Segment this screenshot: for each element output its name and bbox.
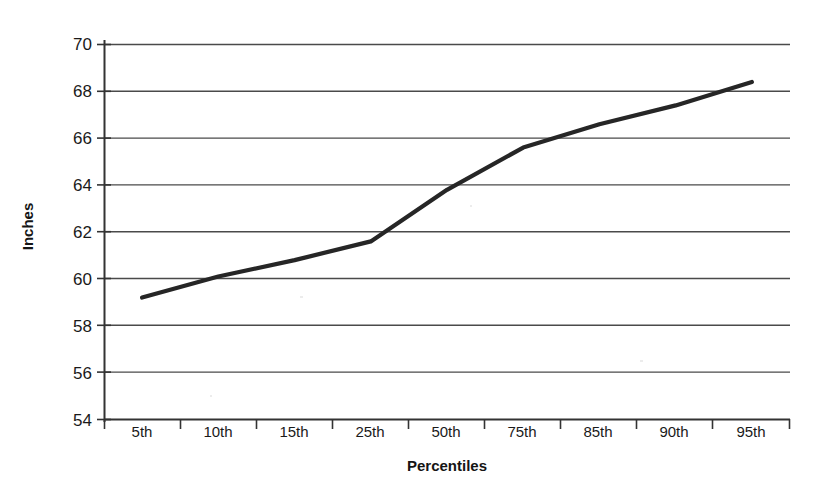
gridlines [104,45,790,373]
data-line-height [142,82,752,298]
plot-area [0,0,818,504]
line-chart: Inches 70 68 66 64 62 60 58 56 54 5th 10… [0,0,818,504]
